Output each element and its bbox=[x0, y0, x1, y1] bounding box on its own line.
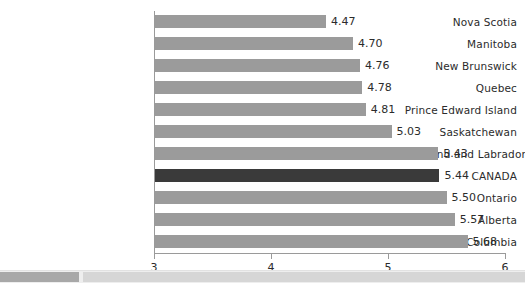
bar bbox=[154, 37, 353, 50]
bar-value-label: 4.70 bbox=[353, 33, 383, 55]
bar-value-label: 5.03 bbox=[392, 121, 422, 143]
chart-row: Nova Scotia4.47 bbox=[0, 11, 525, 33]
axis-tick bbox=[388, 253, 389, 259]
category-label: Manitoba bbox=[373, 33, 525, 55]
bar-value-label: 4.47 bbox=[326, 11, 356, 33]
bar-value-label: 5.43 bbox=[438, 143, 468, 165]
chart-row: Saskatchewan5.03 bbox=[0, 121, 525, 143]
chart-row: Prince Edward Island4.81 bbox=[0, 99, 525, 121]
axis-tick bbox=[154, 253, 155, 259]
bar bbox=[154, 235, 468, 248]
bar bbox=[154, 125, 392, 138]
bar bbox=[154, 81, 362, 94]
category-label: New Brunswick bbox=[373, 55, 525, 77]
bar bbox=[154, 15, 326, 28]
category-label: Prince Edward Island bbox=[373, 99, 525, 121]
chart-row: Newfoundland and Labrador5.43 bbox=[0, 143, 525, 165]
bar-value-label: 4.81 bbox=[366, 99, 396, 121]
scrollbar-track[interactable] bbox=[83, 272, 525, 282]
bar-value-label: 5.57 bbox=[455, 209, 485, 231]
axis-tick bbox=[505, 253, 506, 259]
chart-page: Nova Scotia4.47Manitoba4.70New Brunswick… bbox=[0, 0, 525, 283]
bar-value-label: 4.78 bbox=[362, 77, 392, 99]
chart-row: Quebec4.78 bbox=[0, 77, 525, 99]
axis-horizontal-line bbox=[154, 253, 506, 254]
bar bbox=[154, 59, 360, 72]
chart-row: Alberta5.57 bbox=[0, 209, 525, 231]
horizontal-scrollbar[interactable] bbox=[0, 270, 525, 283]
chart-row: Ontario5.50 bbox=[0, 187, 525, 209]
bar-value-label: 5.68 bbox=[468, 231, 498, 253]
chart-row: British Columbia5.68 bbox=[0, 231, 525, 253]
category-label: Quebec bbox=[373, 77, 525, 99]
chart-row: Manitoba4.70 bbox=[0, 33, 525, 55]
axis-tick bbox=[271, 253, 272, 259]
bar bbox=[154, 213, 455, 226]
bar-value-label: 4.76 bbox=[360, 55, 390, 77]
category-label: Nova Scotia bbox=[373, 11, 525, 33]
bar bbox=[154, 103, 366, 116]
scrollbar-thumb[interactable] bbox=[0, 272, 79, 282]
chart-row: CANADA5.44 bbox=[0, 165, 525, 187]
bar-chart: Nova Scotia4.47Manitoba4.70New Brunswick… bbox=[0, 0, 525, 268]
chart-row: New Brunswick4.76 bbox=[0, 55, 525, 77]
bar bbox=[154, 191, 447, 204]
bar bbox=[154, 147, 438, 160]
bar-value-label: 5.44 bbox=[439, 165, 469, 187]
bar-value-label: 5.50 bbox=[447, 187, 477, 209]
bar-highlighted bbox=[154, 169, 439, 182]
